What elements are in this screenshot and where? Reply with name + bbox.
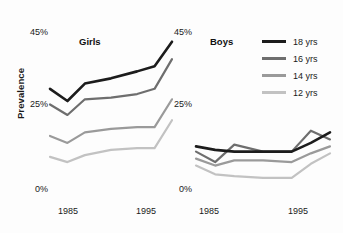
legend-label-18-yrs: 18 yrs — [293, 37, 318, 47]
legend-item[interactable]: 18 yrs — [262, 33, 340, 50]
legend-label-16-yrs: 16 yrs — [293, 54, 318, 64]
legend-item[interactable]: 12 yrs — [262, 84, 340, 101]
legend-swatch-12-yrs — [262, 91, 286, 94]
legend: 18 yrs 16 yrs 14 yrs 12 yrs — [262, 33, 340, 101]
legend-swatch-14-yrs — [262, 74, 286, 77]
series-line-18-yrs — [196, 132, 330, 151]
legend-label-12-yrs: 12 yrs — [293, 88, 318, 98]
legend-label-14-yrs: 14 yrs — [293, 71, 318, 81]
series-line-14-yrs — [50, 99, 172, 143]
legend-swatch-16-yrs — [262, 57, 286, 60]
series-line-18-yrs — [50, 42, 172, 101]
legend-item[interactable]: 16 yrs — [262, 50, 340, 67]
legend-item[interactable]: 14 yrs — [262, 67, 340, 84]
chart-figure: Prevalence 45% 25% 0% 45% 25% 0% Girls B… — [0, 0, 343, 233]
series-line-16-yrs — [196, 131, 330, 162]
legend-swatch-18-yrs — [262, 40, 286, 43]
